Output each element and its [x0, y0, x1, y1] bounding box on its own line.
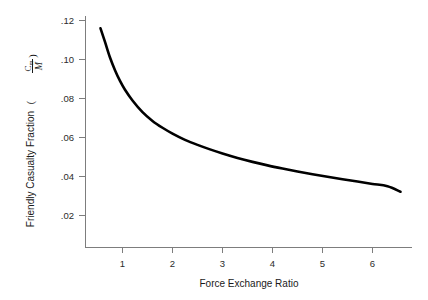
data-curve-friendly-casualty-fraction — [101, 28, 401, 191]
y-tick-label-2: .08 — [61, 93, 74, 104]
y-axis-title-close-paren: ) — [27, 54, 39, 57]
x-tick-marks — [123, 248, 373, 254]
y-tick-label-3: .06 — [61, 132, 74, 143]
x-tick-label-5: 6 — [370, 258, 375, 269]
y-axis-title-group: Friendly Casualty Fraction ( Cm M ) — [23, 54, 44, 227]
y-axis-title-denominator: M — [33, 61, 44, 71]
y-tick-marks — [79, 21, 86, 216]
x-tick-label-1: 2 — [170, 258, 175, 269]
y-tick-label-1: .10 — [61, 54, 74, 65]
x-tick-label-3: 4 — [270, 258, 275, 269]
chart-figure: .12 .10 .08 .06 .04 .02 1 2 3 4 5 6 Forc… — [0, 0, 428, 300]
x-tick-label-4: 5 — [320, 258, 325, 269]
x-tick-label-0: 1 — [120, 258, 125, 269]
chart-canvas: .12 .10 .08 .06 .04 .02 1 2 3 4 5 6 Forc… — [0, 0, 428, 300]
y-tick-label-4: .04 — [61, 171, 74, 182]
y-axis-title: Friendly Casualty Fraction ( — [25, 100, 37, 227]
y-axis-title-open-paren: ( — [25, 100, 37, 104]
y-tick-label-5: .02 — [61, 210, 74, 221]
x-tick-label-2: 3 — [220, 258, 225, 269]
y-tick-label-0: .12 — [61, 15, 74, 26]
x-axis-title: Force Exchange Ratio — [200, 278, 299, 289]
y-axis-title-text: Friendly Casualty Fraction — [25, 111, 36, 227]
